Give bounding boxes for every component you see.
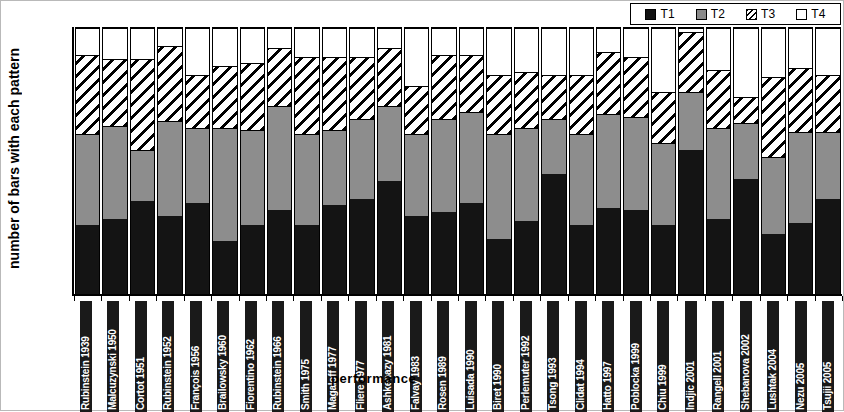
stacked-bar [377,27,402,294]
bar-segment-t1 [405,216,428,294]
bar-segment-t3 [241,63,264,130]
bar-segment-t4 [241,28,264,63]
bar-segment-t1 [515,221,538,294]
x-axis-label-text: Tsong 1993 [547,301,559,412]
stacked-bar [733,27,758,294]
stacked-bar [541,27,566,294]
bar-segment-t1 [103,219,126,294]
bar-segment-t3 [268,48,291,106]
bar-slot [787,27,814,294]
x-axis-label: Lushtak 2004 [760,301,788,412]
chart-legend: T1 T2 T3 T4 [630,3,841,25]
x-axis-label: Cortot 1951 [127,301,155,412]
bar-segment-t4 [186,28,209,75]
bar-segment-t2 [405,134,428,216]
x-axis-label-text: Falvay 1983 [410,301,422,412]
stacked-bar [267,27,292,294]
bar-segment-t2 [487,134,510,238]
bar-segment-t1 [707,219,730,294]
bar-slot [814,27,841,294]
x-axis-label-text: Cortot 1951 [135,301,147,412]
bar-slot [513,27,540,294]
stacked-bar [294,27,319,294]
x-tick-mark [842,296,843,301]
legend-swatch-t4-icon [796,9,807,20]
x-axis-label: Smith 1975 [292,301,320,412]
bar-segment-t3 [487,75,510,135]
bar-segment-t1 [432,212,455,294]
bar-segment-t3 [103,59,126,126]
x-axis-label: Malcuzynski 1950 [100,301,128,412]
x-axis-label: Tsong 1993 [540,301,568,412]
plot-area: 020406080100120 [72,27,842,296]
stacked-bar [102,27,127,294]
bar-slot [540,27,567,294]
bar-segment-t2 [323,130,346,205]
x-axis-label: Clidat 1994 [567,301,595,412]
bar-slot [458,27,485,294]
x-axis-label: Brailowsky 1960 [210,301,238,412]
legend-label-t2: T2 [711,8,725,20]
bar-segment-t1 [816,199,839,294]
bar-segment-t1 [378,181,401,294]
bar-segment-t4 [762,28,785,77]
stacked-bar [404,27,429,294]
x-axis-label: Poblocka 1999 [622,301,650,412]
x-axis-label: Nezu 2005 [787,301,815,412]
x-axis-label-text: Rubinstein 1939 [80,301,92,412]
bar-slot [677,27,704,294]
x-axis-label-text: Lushtak 2004 [767,301,779,412]
stacked-bar [130,27,155,294]
bar-segment-t2 [707,128,730,219]
stacked-bar [623,27,648,294]
legend-label-t1: T1 [660,8,674,20]
bar-slot [129,27,156,294]
bar-segment-t2 [76,134,99,225]
bar-segment-t1 [323,205,346,294]
bar-segment-t2 [350,119,373,199]
x-axis-label: Fliere 1977 [347,301,375,412]
bars-container [74,27,842,294]
bar-segment-t2 [378,106,401,181]
bar-segment-t3 [213,66,236,128]
bar-slot [101,27,128,294]
bar-segment-t1 [624,210,647,294]
bar-segment-t2 [597,114,620,207]
stacked-bar [596,27,621,294]
x-axis-label: Tsujii 2005 [815,301,843,412]
legend-swatch-t3-icon [746,9,757,20]
bar-segment-t4 [487,28,510,75]
x-axis-label-text: Chiu 1999 [657,301,669,412]
x-axis-label-text: Ashkenazy 1981 [382,301,394,412]
bar-segment-t4 [460,28,483,55]
x-axis-label-text: Fiorentino 1962 [245,301,257,412]
bar-segment-t3 [679,32,702,92]
x-axis-label: Fiorentino 1962 [237,301,265,412]
bar-slot [74,27,101,294]
bar-segment-t3 [158,46,181,121]
bar-segment-t4 [76,28,99,55]
x-axis-label: Falvay 1983 [402,301,430,412]
x-axis-label: Rubinstein 1952 [155,301,183,412]
bar-segment-t4 [597,28,620,52]
bar-segment-t1 [268,210,291,294]
x-axis-label-text: Fliere 1977 [355,301,367,412]
bar-segment-t2 [652,143,675,225]
x-axis-label-text: Clidat 1994 [575,301,587,412]
bar-segment-t3 [295,57,318,135]
x-axis-label: Perlemuter 1992 [512,301,540,412]
bar-segment-t2 [542,119,565,174]
bar-segment-t4 [542,28,565,75]
bar-segment-t3 [186,75,209,128]
x-axis-label: Chiu 1999 [650,301,678,412]
bar-segment-t1 [186,203,209,294]
x-axis-label-text: Biret 1990 [492,301,504,412]
bar-segment-t3 [460,55,483,113]
bar-slot [705,27,732,294]
x-axis-labels: Rubinstein 1939Malcuzynski 1950Cortot 19… [72,301,842,412]
bar-slot [650,27,677,294]
bar-segment-t1 [570,225,593,294]
legend-label-t3: T3 [761,8,775,20]
bar-segment-t2 [762,157,785,235]
bar-segment-t2 [570,134,593,225]
